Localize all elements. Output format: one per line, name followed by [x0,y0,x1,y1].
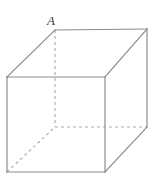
top-right-diagonal-edge [105,29,147,77]
top-left-diagonal-edge [7,30,55,77]
bottom-left-diagonal-edge [7,127,55,172]
visible-edges-group [7,29,147,172]
cube-diagram: A [0,0,155,180]
hidden-edges-group [7,30,147,172]
cube-svg [0,0,155,180]
top-back-edge [55,29,147,30]
vertex-label-a: A [47,14,55,27]
bottom-right-diagonal-edge [105,127,147,172]
